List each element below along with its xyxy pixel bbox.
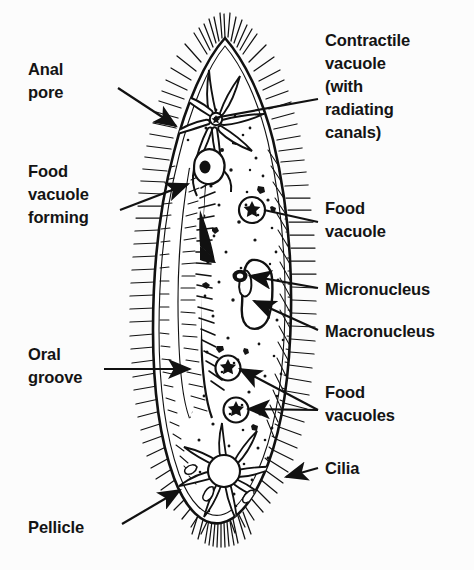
- food-vacuole-mid: [216, 356, 241, 381]
- label-contractile-vacuole: Contractile vacuole (with radiating cana…: [325, 29, 410, 144]
- food-vacuole-upper: [239, 197, 265, 223]
- label-food-vacuole-forming: Food vacuole forming: [28, 160, 89, 229]
- label-anal-pore: Anal pore: [28, 58, 63, 104]
- diagram-page: Anal pore Food vacuole forming Oral groo…: [0, 0, 474, 570]
- label-food-vacuole: Food vacuole: [325, 197, 386, 243]
- macronucleus-body: [239, 260, 272, 329]
- label-cilia: Cilia: [325, 457, 359, 480]
- label-oral-groove: Oral groove: [28, 343, 82, 389]
- micronucleus-body: [233, 270, 248, 282]
- label-micronucleus: Micronucleus: [325, 278, 430, 301]
- label-food-vacuoles: Food vacuoles: [325, 381, 395, 427]
- food-vacuole-lower: [224, 398, 249, 423]
- label-pellicle: Pellicle: [28, 516, 84, 539]
- label-macronucleus: Macronucleus: [325, 320, 435, 343]
- leader-food-vacuoles-b: [248, 409, 318, 410]
